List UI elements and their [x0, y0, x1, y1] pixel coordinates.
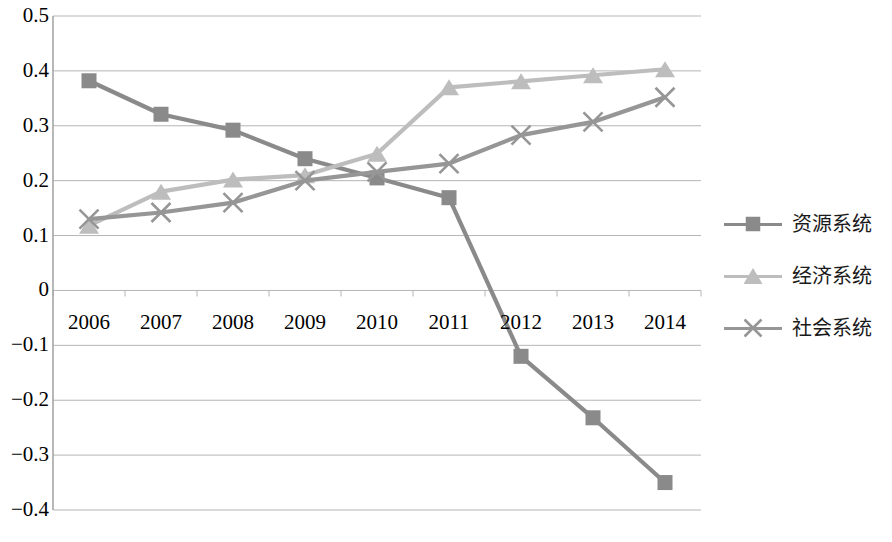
- series-line: [89, 81, 665, 483]
- data-point-square: [226, 123, 241, 138]
- y-axis-tick-label: 0.5: [3, 5, 49, 26]
- legend-label-economic-system: 经济系统: [792, 265, 872, 287]
- legend-item-resource-system[interactable]: 资源系统: [724, 198, 892, 250]
- data-point-square: [442, 190, 457, 205]
- x-axis-tick-label: 2012: [500, 311, 542, 333]
- data-point-square: [514, 349, 529, 364]
- y-axis-tick-label: 0.1: [3, 225, 49, 246]
- y-axis-tick-label: −0.4: [3, 499, 49, 520]
- legend-label-resource-system: 资源系统: [792, 213, 872, 235]
- data-point-x: [656, 88, 675, 107]
- x-axis-tick-label: 2013: [572, 311, 614, 333]
- y-axis-tick-label: 0.4: [3, 60, 49, 81]
- legend-item-social-system[interactable]: 社会系统: [724, 302, 892, 354]
- y-axis-tick-label: −0.3: [3, 444, 49, 465]
- gridlines: [53, 16, 701, 510]
- legend-marker-square-icon: [724, 213, 782, 235]
- legend-item-economic-system[interactable]: 经济系统: [724, 250, 892, 302]
- x-axis-tick-label: 2006: [68, 311, 110, 333]
- x-axis-tick-labels: 200620072008200920102011201220132014: [53, 311, 701, 341]
- y-axis-tick-label: 0: [3, 279, 49, 300]
- legend-marker-triangle-icon: [724, 265, 782, 287]
- data-point-square: [82, 73, 97, 88]
- data-point-square: [586, 410, 601, 425]
- y-axis-tick-label: −0.1: [3, 334, 49, 355]
- data-point-square: [658, 475, 673, 490]
- data-point-square: [154, 107, 169, 122]
- x-axis-tick-marks: [53, 290, 701, 296]
- y-axis-tick-label: −0.2: [3, 389, 49, 410]
- x-axis-tick-label: 2007: [140, 311, 182, 333]
- series-square: [82, 73, 673, 490]
- y-axis-tick-label: 0.2: [3, 170, 49, 191]
- x-axis-tick-label: 2014: [644, 311, 686, 333]
- line-chart: 0.50.40.30.20.10−0.1−0.2−0.3−0.4 2006200…: [0, 0, 892, 542]
- legend-label-social-system: 社会系统: [792, 317, 872, 339]
- legend-marker-x-icon: [724, 317, 782, 339]
- x-axis-tick-label: 2009: [284, 311, 326, 333]
- y-axis-tick-label: 0.3: [3, 115, 49, 136]
- chart-legend: 资源系统 经济系统 社会系统: [724, 198, 892, 354]
- series-triangle: [79, 61, 675, 233]
- x-axis-tick-label: 2008: [212, 311, 254, 333]
- x-axis-tick-label: 2011: [428, 311, 469, 333]
- x-axis-tick-label: 2010: [356, 311, 398, 333]
- y-axis-tick-labels: 0.50.40.30.20.10−0.1−0.2−0.3−0.4: [0, 0, 49, 542]
- data-point-square: [298, 151, 313, 166]
